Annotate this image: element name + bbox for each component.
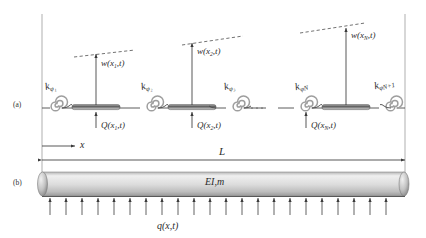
spring-N-coil bbox=[301, 96, 322, 111]
Q2-tail: ,t) bbox=[213, 120, 221, 130]
spring-label-2-sub: φ₂ bbox=[145, 84, 152, 92]
distributed-load-label: q(x,t) bbox=[157, 220, 178, 231]
Q2-head: Q(x bbox=[197, 120, 211, 130]
tangent-1 bbox=[74, 50, 135, 57]
wN-tail: ,t) bbox=[368, 30, 376, 40]
QN-head: Q(x bbox=[311, 120, 325, 130]
wN-head: w(x bbox=[351, 30, 364, 40]
load-label-1: Q(x1,t) bbox=[101, 120, 125, 131]
x-axis-label: x bbox=[80, 139, 84, 150]
displacement-label-2: w(x2,t) bbox=[197, 46, 221, 57]
panel-tag-b: (b) bbox=[13, 178, 22, 187]
QN-tail: ,t) bbox=[328, 120, 336, 130]
load-label-2: Q(x2,t) bbox=[197, 120, 221, 131]
distributed-load-arrows bbox=[50, 198, 386, 215]
beam-right-cap bbox=[399, 172, 409, 196]
w2-tail: ,t) bbox=[213, 46, 221, 56]
length-label: L bbox=[219, 145, 225, 157]
beam-property-label: EI,m bbox=[205, 176, 224, 187]
w1-head: w(x bbox=[101, 58, 114, 68]
tangent-2 bbox=[182, 36, 243, 45]
w1-tail: ,t) bbox=[117, 58, 125, 68]
load-label-N: Q(xN,t) bbox=[311, 120, 336, 131]
Q1-head: Q(x bbox=[101, 120, 115, 130]
figure-canvas: (a) (b) kφ₁ kφ₂ kφ₃ kφN kφN+1 w(x1,t) w(… bbox=[0, 0, 426, 238]
spring-label-1-sub: φ₁ bbox=[49, 84, 56, 92]
Q1-tail: ,t) bbox=[117, 120, 125, 130]
w2-head: w(x bbox=[197, 46, 210, 56]
spring-N1-coil bbox=[380, 96, 403, 111]
spring-2-coil bbox=[147, 96, 168, 111]
rigid-segments bbox=[72, 105, 370, 110]
displacement-label-1: w(x1,t) bbox=[101, 58, 125, 69]
spring-1-coil bbox=[51, 96, 72, 111]
segment-N bbox=[322, 105, 370, 110]
segment-2 bbox=[168, 105, 216, 110]
beam-left-cap bbox=[38, 172, 48, 196]
segment-1 bbox=[72, 105, 120, 110]
panel-tag-a: (a) bbox=[13, 100, 21, 109]
spring-label-3-sub: φ₃ bbox=[228, 84, 235, 92]
displacement-label-N: w(xN,t) bbox=[351, 30, 375, 41]
